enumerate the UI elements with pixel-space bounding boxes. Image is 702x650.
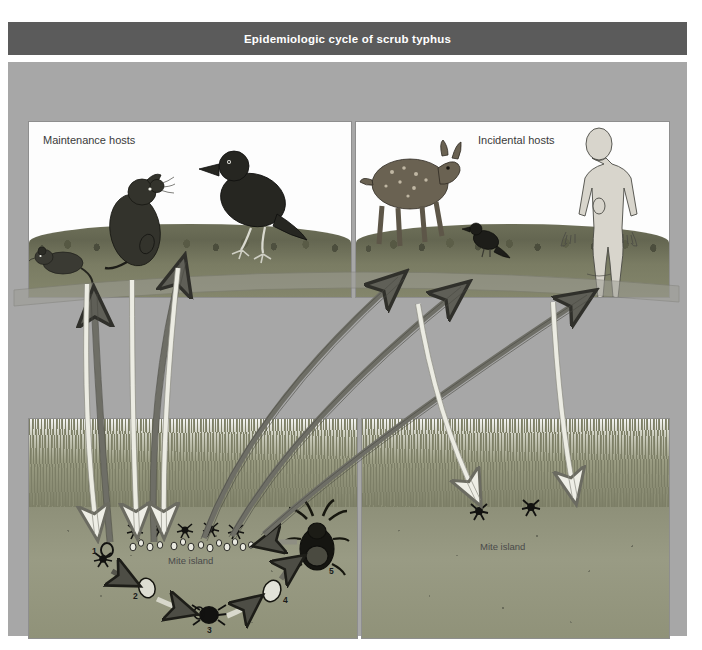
stage-number-4: 4 xyxy=(283,595,288,605)
stage-number-5: 5 xyxy=(329,566,334,576)
label-incidental-hosts: Incidental hosts xyxy=(478,134,554,146)
transmission-arrow-layer xyxy=(8,22,687,636)
stage-number-3: 3 xyxy=(207,625,212,635)
label-mite-island-left: Mite island xyxy=(168,555,213,566)
label-mite-island-right: Mite island xyxy=(480,541,525,552)
stage-number-1: 1 xyxy=(92,546,97,556)
label-maintenance-hosts: Maintenance hosts xyxy=(43,134,135,146)
arrow-human-to-island-right xyxy=(553,302,575,498)
stage-number-2: 2 xyxy=(133,591,138,601)
figure-root: Epidemiologic cycle of scrub typhus xyxy=(8,22,687,636)
